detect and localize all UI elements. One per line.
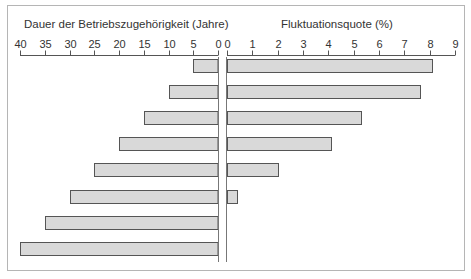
- left-tick-label: 15: [138, 38, 150, 50]
- left-tick-label: 30: [64, 38, 76, 50]
- left-bar: [194, 60, 219, 73]
- left-bar: [170, 86, 219, 99]
- right-bar: [228, 86, 421, 99]
- left-bar: [95, 164, 219, 177]
- left-panel-title: Dauer der Betriebszugehörigkeit (Jahre): [24, 18, 229, 30]
- right-tick-label: 6: [376, 38, 382, 50]
- left-bar: [46, 217, 219, 230]
- right-tick-label: 9: [452, 38, 458, 50]
- left-bar: [21, 243, 219, 256]
- left-bar: [145, 112, 219, 125]
- left-tick-label: 25: [88, 38, 100, 50]
- left-bar: [120, 138, 219, 151]
- right-tick-label: 0: [224, 38, 230, 50]
- left-tick-label: 10: [163, 38, 175, 50]
- right-tick-label: 2: [275, 38, 281, 50]
- right-bar: [228, 112, 362, 125]
- right-panel-title: Fluktuationsquote (%): [281, 18, 393, 30]
- right-bar: [228, 60, 433, 73]
- left-tick-label: 0: [215, 38, 221, 50]
- left-tick-label: 20: [113, 38, 125, 50]
- right-tick-label: 4: [325, 38, 331, 50]
- right-bar: [228, 164, 279, 177]
- left-tick-label: 5: [190, 38, 196, 50]
- right-tick-label: 5: [351, 38, 357, 50]
- left-bar: [71, 191, 219, 204]
- right-bar: [228, 191, 238, 204]
- right-tick-label: 1: [249, 38, 255, 50]
- right-tick-label: 8: [427, 38, 433, 50]
- right-tick-label: 7: [401, 38, 407, 50]
- left-tick-label: 35: [39, 38, 51, 50]
- left-tick-label: 40: [14, 38, 26, 50]
- chart: Dauer der Betriebszugehörigkeit (Jahre) …: [0, 0, 471, 279]
- right-bar: [228, 138, 332, 151]
- right-tick-label: 3: [300, 38, 306, 50]
